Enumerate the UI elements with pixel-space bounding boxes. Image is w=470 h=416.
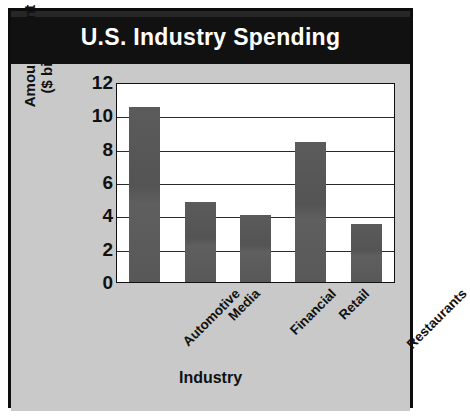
bar	[185, 202, 216, 282]
bar	[295, 142, 326, 282]
x-axis-title: Industry	[11, 369, 410, 387]
y-axis-title: Amount Spent ($ billions)	[21, 0, 55, 126]
bar	[129, 107, 160, 282]
bar	[351, 224, 382, 282]
bar-series	[117, 84, 394, 282]
y-axis-ticks: 024681012	[73, 76, 113, 282]
y-axis-tick-label: 12	[92, 72, 113, 94]
y-axis-tick-label: 0	[102, 272, 113, 294]
bar	[240, 215, 271, 282]
x-axis-tick-label: Restaurants	[404, 286, 470, 352]
chart-frame: U.S. Industry Spending Amount Spent ($ b…	[8, 8, 413, 408]
y-axis-title-line1: Amount Spent	[21, 0, 38, 126]
y-axis-tick-label: 2	[102, 239, 113, 261]
y-axis-title-line2: ($ billions)	[38, 0, 55, 126]
y-axis-tick-label: 10	[92, 105, 113, 127]
x-axis-tick-label: Retail	[336, 286, 373, 323]
title-band-highlight	[11, 11, 410, 17]
x-axis-tick-labels: AutomotiveMediaFinancialRetailRestaurant…	[116, 286, 395, 371]
chart-title-band: U.S. Industry Spending	[11, 11, 410, 64]
y-axis-tick-label: 4	[102, 205, 113, 227]
plot-area-wrapper: Amount Spent ($ billions) 024681012 Auto…	[11, 64, 410, 411]
y-axis-tick-label: 6	[102, 172, 113, 194]
chart-title: U.S. Industry Spending	[81, 24, 341, 51]
x-axis-tick-label: Financial	[287, 286, 339, 338]
plot-box	[116, 83, 395, 283]
y-axis-tick-label: 8	[102, 139, 113, 161]
